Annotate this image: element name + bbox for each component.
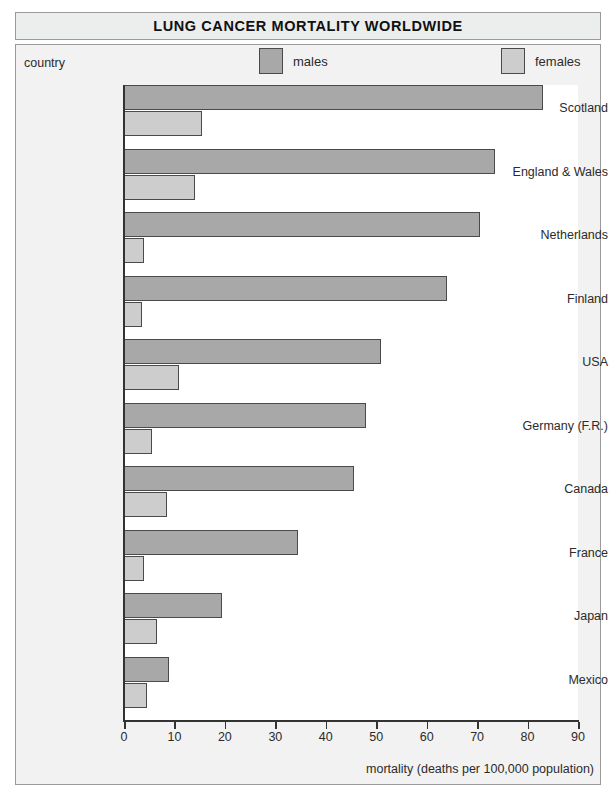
x-tick-label: 0 — [121, 730, 128, 744]
bar-males-france — [124, 530, 298, 555]
x-tick-mark — [124, 722, 126, 729]
category-label: Canada — [500, 482, 616, 496]
category-label: Finland — [500, 292, 616, 306]
x-tick-label: 20 — [218, 730, 232, 744]
category-label: Netherlands — [500, 228, 616, 242]
category-label: USA — [500, 355, 616, 369]
category-label: Japan — [500, 609, 616, 623]
x-tick-label: 60 — [420, 730, 434, 744]
legend-swatch-males-icon — [259, 48, 283, 74]
category-label: Mexico — [500, 673, 616, 687]
legend-swatch-females-icon — [501, 48, 525, 74]
category-axis-label: country — [24, 56, 65, 70]
x-tick-mark — [275, 722, 277, 729]
legend-item-females[interactable]: females — [501, 48, 581, 74]
x-tick-mark — [427, 722, 429, 729]
x-tick-mark — [225, 722, 227, 729]
bar-females-germany-f-r — [124, 429, 152, 454]
x-tick-label: 50 — [369, 730, 383, 744]
x-axis-caption: mortality (deaths per 100,000 population… — [366, 762, 594, 776]
x-tick-mark — [528, 722, 530, 729]
bar-females-scotland — [124, 111, 202, 136]
bar-males-netherlands — [124, 212, 480, 237]
y-axis-line — [123, 85, 125, 722]
x-tick-label: 30 — [268, 730, 282, 744]
page-title: LUNG CANCER MORTALITY WORLDWIDE — [153, 18, 463, 34]
x-axis-line — [124, 720, 579, 722]
bar-males-mexico — [124, 657, 169, 682]
x-tick-mark — [326, 722, 328, 729]
legend-item-males[interactable]: males — [259, 48, 328, 74]
x-tick-label: 80 — [521, 730, 535, 744]
category-label: Scotland — [500, 101, 616, 115]
x-tick-label: 70 — [470, 730, 484, 744]
category-label: Germany (F.R.) — [500, 419, 616, 433]
bar-females-canada — [124, 492, 167, 517]
x-tick-label: 40 — [319, 730, 333, 744]
bar-males-canada — [124, 466, 354, 491]
bar-females-france — [124, 556, 144, 581]
bar-females-usa — [124, 365, 179, 390]
bar-males-finland — [124, 276, 447, 301]
category-label: England & Wales — [500, 165, 616, 179]
bar-females-finland — [124, 302, 142, 327]
x-tick-mark — [376, 722, 378, 729]
category-label: France — [500, 546, 616, 560]
bar-females-japan — [124, 619, 157, 644]
chart-page: LUNG CANCER MORTALITY WORLDWIDE country … — [0, 0, 616, 805]
bar-females-mexico — [124, 683, 147, 708]
bar-females-england-wales — [124, 175, 195, 200]
x-tick-label: 10 — [167, 730, 181, 744]
x-tick-mark — [477, 722, 479, 729]
x-tick-mark — [174, 722, 176, 729]
bar-males-england-wales — [124, 149, 495, 174]
legend-label-males: males — [293, 54, 328, 69]
x-tick-mark — [578, 722, 580, 729]
bar-males-germany-f-r — [124, 403, 366, 428]
bar-males-usa — [124, 339, 381, 364]
bar-females-netherlands — [124, 238, 144, 263]
bar-males-japan — [124, 593, 222, 618]
legend-label-females: females — [535, 54, 581, 69]
x-tick-label: 90 — [571, 730, 585, 744]
bar-males-scotland — [124, 85, 543, 110]
chart-title-bar: LUNG CANCER MORTALITY WORLDWIDE — [15, 12, 601, 40]
